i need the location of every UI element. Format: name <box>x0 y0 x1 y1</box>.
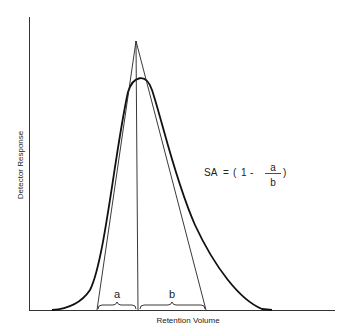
formula-denominator: b <box>270 177 276 188</box>
peak-curve <box>52 78 272 310</box>
formula-numerator: a <box>270 162 276 173</box>
segment-label-b: b <box>169 288 175 300</box>
asymmetry-formula: SA = ( 1 - a b ) <box>204 162 286 188</box>
asymmetry-diagram: a b Retention Volume Detector Response S… <box>0 0 353 335</box>
left-tangent-line <box>97 41 136 310</box>
formula-lhs: SA <box>204 167 218 178</box>
brace-a <box>98 302 136 309</box>
formula-minus: - <box>250 167 253 178</box>
segment-label-a: a <box>114 288 121 300</box>
formula-one: 1 <box>241 167 247 178</box>
apex-perpendicular <box>136 41 138 310</box>
formula-open-paren: ( <box>233 167 237 178</box>
y-axis-label: Detector Response <box>16 130 25 199</box>
right-tangent-line <box>136 41 206 310</box>
brace-b <box>140 302 205 309</box>
formula-close-paren: ) <box>283 167 286 178</box>
x-axis-label: Retention Volume <box>156 316 220 325</box>
formula-equals: = <box>223 167 229 178</box>
